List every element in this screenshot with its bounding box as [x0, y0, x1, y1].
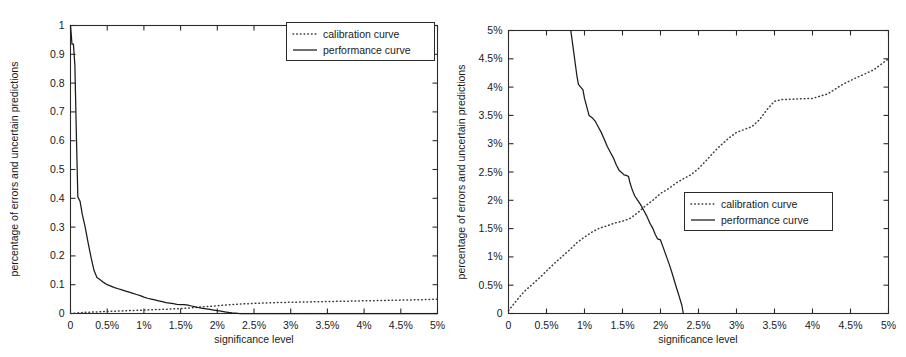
xticklabels-right: 00.5%1%1.5%2%2.5%3%3.5%4%4.5%5%	[506, 319, 897, 331]
x-tick-label: 0	[506, 319, 512, 331]
x-tick-label: 2%	[210, 319, 225, 331]
y-tick-label: 2%	[487, 194, 502, 206]
x-tick-label: 0.5%	[95, 319, 119, 331]
x-tick-label: 4.5%	[389, 319, 413, 331]
y-tick-label: 1.5%	[479, 222, 503, 234]
legend-label-performance-right: performance curve	[721, 214, 809, 226]
chart-svg-left: 00.5%1%1.5%2%2.5%3%3.5%4%4.5%5% 00.10.20…	[0, 0, 453, 357]
x-axis-label-right: significance level	[658, 333, 737, 345]
x-tick-label: 4%	[357, 319, 372, 331]
y-tick-label: 0.5%	[479, 279, 503, 291]
y-tick-label: 0	[497, 307, 503, 319]
x-tick-label: 0.5%	[535, 319, 559, 331]
y-tick-label: 3%	[487, 137, 502, 149]
legend-right: calibration curve performance curve	[685, 193, 833, 231]
x-tick-label: 3.5%	[315, 319, 339, 331]
legend-label-performance-left: performance curve	[323, 44, 411, 56]
x-tick-label: 4%	[805, 319, 820, 331]
y-tick-label: 0.4	[50, 192, 65, 204]
plot-area-left: 00.5%1%1.5%2%2.5%3%3.5%4%4.5%5% 00.10.20…	[50, 19, 445, 331]
y-axis-label-left: percentage of errors and uncertain predi…	[8, 62, 20, 277]
performance-curve-left	[71, 26, 438, 314]
x-tick-label: 3%	[283, 319, 298, 331]
chart-panel-left: 00.5%1%1.5%2%2.5%3%3.5%4%4.5%5% 00.10.20…	[0, 0, 453, 357]
y-tick-label: 1	[59, 19, 65, 31]
x-tick-label: 1.5%	[611, 319, 635, 331]
y-axis-label-right: percentage of errors and uncertain predi…	[455, 65, 467, 280]
y-tick-label: 2.5%	[479, 166, 503, 178]
chart-panel-right: 00.5%1%1.5%2%2.5%3%3.5%4%4.5%5% 00.5%1%1…	[453, 0, 906, 357]
legend-label-calibration-right: calibration curve	[721, 198, 798, 210]
yticklabels-right: 00.5%1%1.5%2%2.5%3%3.5%4%4.5%5%	[479, 24, 503, 319]
x-tick-label: 2.5%	[242, 319, 266, 331]
plot-area-right: 00.5%1%1.5%2%2.5%3%3.5%4%4.5%5% 00.5%1%1…	[479, 24, 897, 331]
y-tick-label: 3.5%	[479, 109, 503, 121]
yticks-right	[509, 31, 889, 314]
y-tick-label: 0.3	[50, 221, 65, 233]
legend-label-calibration-left: calibration curve	[323, 28, 400, 40]
calibration-curve-right	[509, 59, 889, 311]
y-tick-label: 0.7	[50, 105, 65, 117]
x-tick-label: 2%	[653, 319, 668, 331]
x-tick-label: 5%	[881, 319, 896, 331]
x-tick-label: 4.5%	[839, 319, 863, 331]
x-tick-label: 1%	[136, 319, 151, 331]
xticks-left	[71, 26, 438, 314]
y-tick-label: 0.2	[50, 249, 65, 261]
y-tick-label: 0.6	[50, 134, 65, 146]
performance-curve-right	[571, 31, 683, 314]
xticks-right	[509, 31, 889, 314]
xticklabels-left: 00.5%1%1.5%2%2.5%3%3.5%4%4.5%5%	[68, 319, 446, 331]
chart-svg-right: 00.5%1%1.5%2%2.5%3%3.5%4%4.5%5% 00.5%1%1…	[453, 0, 906, 357]
plot-frame-left	[71, 26, 438, 314]
plot-frame-right	[509, 31, 889, 314]
x-tick-label: 1.5%	[169, 319, 193, 331]
y-tick-label: 0.5	[50, 163, 65, 175]
x-tick-label: 1%	[577, 319, 592, 331]
y-tick-label: 1%	[487, 250, 502, 262]
y-tick-label: 0.9	[50, 48, 65, 60]
x-tick-label: 0	[68, 319, 74, 331]
x-tick-label: 2.5%	[687, 319, 711, 331]
figure-container: 00.5%1%1.5%2%2.5%3%3.5%4%4.5%5% 00.10.20…	[0, 0, 906, 357]
y-tick-label: 5%	[487, 24, 502, 36]
y-tick-label: 4%	[487, 81, 502, 93]
x-tick-label: 3.5%	[763, 319, 787, 331]
yticklabels-left: 00.10.20.30.40.50.60.70.80.91	[50, 19, 65, 319]
y-tick-label: 0.8	[50, 77, 65, 89]
y-tick-label: 0.1	[50, 278, 65, 290]
y-tick-label: 4.5%	[479, 52, 503, 64]
y-tick-label: 0	[59, 307, 65, 319]
x-tick-label: 5%	[430, 319, 445, 331]
legend-left: calibration curve performance curve	[287, 23, 435, 61]
x-tick-label: 3%	[729, 319, 744, 331]
x-axis-label-left: significance level	[214, 333, 293, 345]
yticks-left	[71, 26, 438, 314]
